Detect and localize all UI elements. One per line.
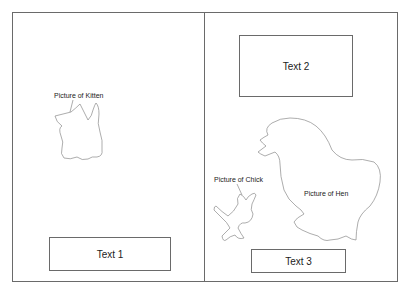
hen-picture[interactable] xyxy=(258,118,380,241)
hen-outline-icon xyxy=(258,118,380,241)
chick-outline-icon xyxy=(214,193,256,240)
chick-picture[interactable] xyxy=(214,184,256,241)
kitten-outline-icon xyxy=(55,103,102,160)
kitten-picture[interactable] xyxy=(55,100,102,160)
